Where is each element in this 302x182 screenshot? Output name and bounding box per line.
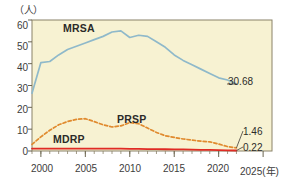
y-tick-label: 0	[6, 146, 28, 157]
y-tick-label: 30	[6, 83, 28, 94]
series-label-mdrp: MDRP	[53, 133, 85, 145]
endpoint-label-prsp: 1.46	[243, 126, 262, 137]
y-axis-unit-label: （人）	[14, 2, 43, 17]
y-tick-label: 40	[6, 62, 28, 73]
endpoint-label-mrsa: 30.68	[228, 76, 253, 87]
x-tick-label: 2010	[108, 163, 152, 174]
x-tick-label-last: 2025(年)	[240, 163, 279, 178]
endpoint-label-mdrp: 0.22	[243, 142, 262, 153]
x-tick-label: 2020	[196, 163, 240, 174]
x-tick-label: 2005	[64, 163, 108, 174]
plot-svg	[0, 0, 302, 182]
x-tick-label: 2015	[152, 163, 196, 174]
y-tick-label: 60	[6, 20, 28, 31]
series-label-mrsa: MRSA	[63, 22, 95, 34]
y-tick-label: 20	[6, 104, 28, 115]
chart-container: （人） 60 50 40 30 20 10 0 2000 2005 2010 2…	[0, 0, 302, 182]
x-axis-unit-label: (年)	[262, 166, 279, 177]
y-tick-label: 50	[6, 41, 28, 52]
x-tick-label-year: 2025	[240, 166, 262, 177]
y-tick-label: 10	[6, 125, 28, 136]
series-label-prsp: PRSP	[117, 113, 146, 125]
x-tick-label: 2000	[20, 163, 64, 174]
